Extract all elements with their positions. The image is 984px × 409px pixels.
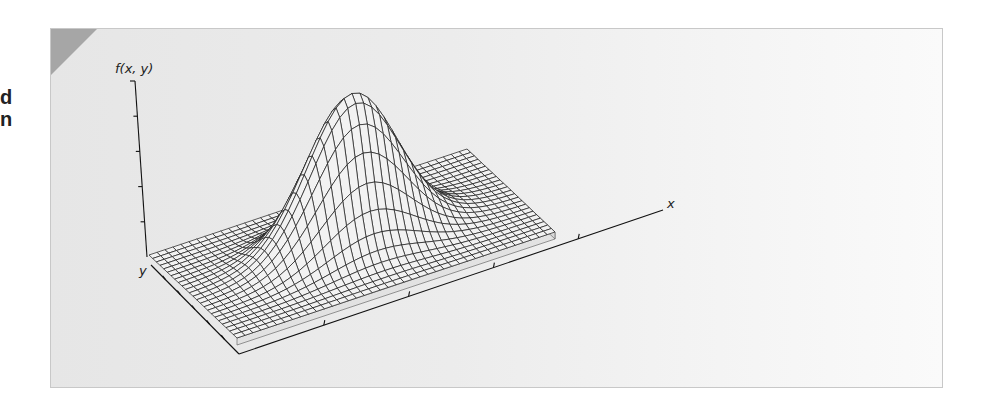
edge-text-fragment-1: d bbox=[0, 86, 12, 109]
y-axis-label: y bbox=[138, 263, 147, 278]
figure-panel: f(x, y) x y bbox=[50, 28, 943, 388]
edge-text-fragment-2: n bbox=[0, 108, 12, 131]
z-axis-label: f(x, y) bbox=[115, 61, 153, 76]
x-axis-label: x bbox=[666, 196, 675, 211]
surface-plot: f(x, y) x y bbox=[51, 29, 943, 388]
